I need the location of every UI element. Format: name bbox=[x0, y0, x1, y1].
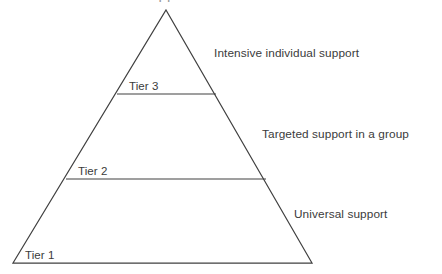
tier-1-description: Universal support bbox=[294, 207, 388, 221]
tier-3-label: Tier 3 bbox=[129, 80, 159, 92]
tier-2-label: Tier 2 bbox=[78, 165, 108, 177]
tier-2-description: Targeted support in a group bbox=[262, 127, 409, 141]
tier-1-label: Tier 1 bbox=[25, 249, 55, 261]
pyramid-diagram: A tiered model of support Tier 3 Tier 2 … bbox=[0, 0, 442, 274]
tier-3-description: Intensive individual support bbox=[214, 46, 359, 60]
